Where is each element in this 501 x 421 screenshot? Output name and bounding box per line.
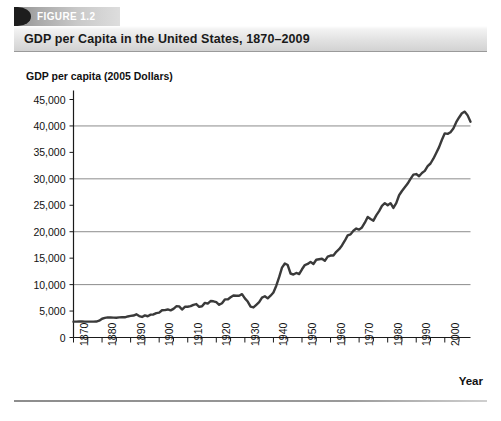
x-axis-tick-label: 1930 (249, 322, 261, 345)
x-axis-tick-label: 1990 (420, 322, 432, 345)
x-axis-tick-label: 1880 (106, 322, 118, 345)
y-axis-tick-label: 10,000 (14, 279, 66, 291)
y-axis-tick-label: 5,000 (14, 305, 66, 317)
x-axis-tick-label: 1980 (392, 322, 404, 345)
y-axis-tick-label: 45,000 (14, 94, 66, 106)
x-axis-tick-label: 1910 (192, 322, 204, 345)
y-axis-tick-label: 30,000 (14, 173, 66, 185)
x-axis-tick-label: 1870 (78, 322, 90, 345)
y-axis-tick-label: 20,000 (14, 226, 66, 238)
figure-container: FIGURE 1.2 GDP per Capita in the United … (0, 0, 501, 421)
y-axis-tick-label: 35,000 (14, 146, 66, 158)
data-line-gdp-per-capita (74, 112, 471, 322)
y-axis-tick-label: 40,000 (14, 120, 66, 132)
x-axis-tick-label: 1890 (135, 322, 147, 345)
x-axis-tick-label: 1940 (277, 322, 289, 345)
chart-svg (0, 0, 501, 421)
x-axis-tick-label: 1920 (220, 322, 232, 345)
x-axis-tick-label: 1900 (163, 322, 175, 345)
x-axis-label: Year (459, 375, 483, 387)
y-axis-tick-label: 0 (14, 332, 66, 344)
x-axis-tick-label: 1950 (306, 322, 318, 345)
x-axis-tick-label: 2000 (449, 322, 461, 345)
chart-plot-area: 05,00010,00015,00020,00025,00030,00035,0… (0, 0, 501, 421)
y-axis-tick-label: 15,000 (14, 252, 66, 264)
y-axis-tick-label: 25,000 (14, 199, 66, 211)
figure-bottom-rule (14, 400, 487, 402)
x-axis-tick-label: 1970 (363, 322, 375, 345)
x-axis-tick-label: 1960 (335, 322, 347, 345)
